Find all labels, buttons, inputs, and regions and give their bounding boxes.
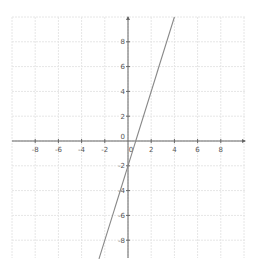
x-tick-label: 6 (195, 146, 200, 154)
y-tick-label: -8 (118, 237, 125, 245)
y-tick-label: 4 (121, 88, 126, 96)
plot-line (99, 17, 174, 259)
y-tick-label: 8 (121, 38, 125, 46)
y-tick-label: -2 (118, 162, 125, 170)
y-tick-label: -6 (118, 212, 126, 220)
x-tick-label: -4 (78, 146, 86, 154)
x-tick-label: -6 (55, 146, 63, 154)
y-tick-label: 6 (121, 63, 126, 71)
x-axis-arrow-icon (242, 139, 246, 143)
axes (12, 16, 246, 258)
y-tick-label: 2 (121, 113, 125, 121)
x-tick-label: 2 (149, 146, 153, 154)
x-tick-label: -8 (32, 146, 39, 154)
x-tick-label: 4 (172, 146, 177, 154)
x-tick-label: 8 (219, 146, 223, 154)
graph-canvas: -8-6-4-202468-8-6-4-202468 (0, 0, 253, 274)
y-tick-label: 0 (121, 133, 125, 141)
x-tick-label: -2 (101, 146, 108, 154)
function-line (99, 17, 174, 259)
